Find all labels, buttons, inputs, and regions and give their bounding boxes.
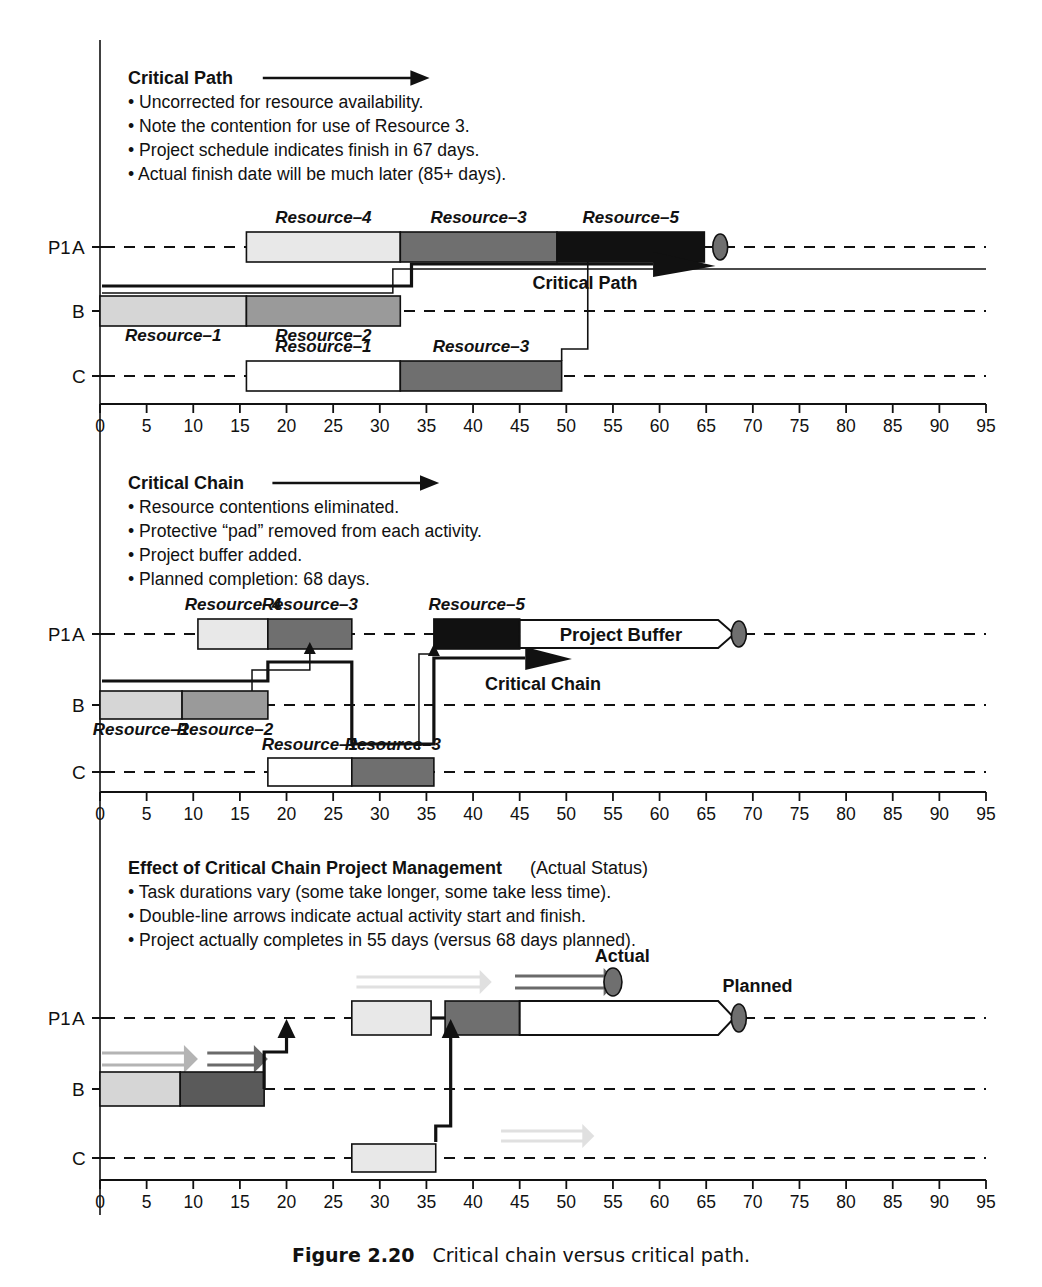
axis-tick-label: 85 (883, 416, 902, 436)
bar-label: Resource–3 (262, 595, 359, 614)
bar-label: Resource–4 (275, 208, 372, 227)
axis-tick-label: 90 (930, 804, 950, 824)
panel-critical-path-header: Critical Path• Uncorrected for resource … (128, 68, 506, 184)
axis-tick-label: 40 (463, 804, 483, 824)
panel-bullet: • Protective “pad” removed from each act… (128, 521, 482, 541)
panel-bullet: • Task durations vary (some take longer,… (128, 882, 611, 902)
axis-tick-label: 85 (883, 1192, 902, 1212)
bar-label: Resource–2 (177, 720, 274, 739)
axis-tick-label: 5 (142, 804, 152, 824)
axis-tick-label: 35 (417, 1192, 436, 1212)
bar-a-actual-2 (445, 1001, 520, 1035)
panel-bullet: • Resource contentions eliminated. (128, 497, 399, 517)
row-label-a: A (72, 624, 85, 645)
axis-tick-label: 30 (370, 416, 390, 436)
critical-chain-label: Critical Chain (485, 674, 601, 694)
bar-b-Resource–2 (246, 296, 400, 326)
axis-tick-label: 60 (650, 416, 670, 436)
axis-tick-label: 95 (976, 804, 995, 824)
bar-c-actual (352, 1144, 436, 1172)
bar-a-Resource–4 (246, 232, 400, 262)
panel-critical-chain-header: Critical Chain• Resource contentions eli… (128, 473, 482, 589)
panel-effect-of-ccpm-header: Effect of Critical Chain Project Managem… (128, 858, 648, 950)
bar-b-Resource–1 (100, 691, 182, 719)
project-row-label: P1 (48, 1008, 71, 1029)
bar-b-actual (180, 1072, 264, 1106)
panel-title: Critical Chain (128, 473, 244, 493)
row-label-a: A (72, 237, 85, 258)
axis-tick-label: 50 (557, 1192, 577, 1212)
figure-caption-text: Critical chain versus critical path. (432, 1244, 750, 1266)
bar-a-Resource–5 (434, 619, 520, 649)
axis-tick-label: 80 (836, 804, 856, 824)
axis-tick-label: 0 (95, 1192, 105, 1212)
axis-tick-label: 60 (650, 1192, 670, 1212)
axis-tick-label: 55 (603, 416, 622, 436)
bar-a-Resource–3 (400, 232, 557, 262)
bar-label: Resource–1 (275, 337, 371, 356)
project-buffer: Project Buffer (520, 620, 735, 648)
panel-bullet: • Note the contention for use of Resourc… (128, 116, 470, 136)
actual-arrowhead-icon (278, 1019, 296, 1038)
axis-tick-label: 70 (743, 416, 763, 436)
bar-label: Resource–5 (582, 208, 679, 227)
axis-tick-label: 20 (277, 416, 297, 436)
row-label-c: C (72, 366, 86, 387)
axis-tick-label: 15 (230, 1192, 249, 1212)
planned-finish-marker-icon (731, 1004, 746, 1032)
axis-tick-label: 35 (417, 804, 436, 824)
bar-label: Resource–3 (430, 208, 527, 227)
ghost-planned-arrow-c (501, 1124, 594, 1148)
bar-a-actual-1 (352, 1001, 431, 1035)
axis-tick-label: 10 (184, 1192, 204, 1212)
axis-tick-label: 45 (510, 416, 529, 436)
panel-title-suffix: (Actual Status) (530, 858, 648, 878)
axis-tick-label: 50 (557, 804, 577, 824)
axis-tick-label: 5 (142, 1192, 152, 1212)
axis-tick-label: 25 (323, 1192, 342, 1212)
project-buffer-remaining (520, 1001, 735, 1035)
axis-tick-label: 65 (696, 1192, 715, 1212)
axis-tick-label: 25 (323, 416, 342, 436)
axis-tick-label: 80 (836, 1192, 856, 1212)
axis-tick-label: 10 (184, 416, 204, 436)
axis-tick-label: 20 (277, 804, 297, 824)
axis-tick-label: 90 (930, 416, 950, 436)
axis-tick-label: 55 (603, 1192, 622, 1212)
bar-a-Resource–4 (198, 619, 268, 649)
row-label-c: C (72, 762, 86, 783)
panel-title: Effect of Critical Chain Project Managem… (128, 858, 502, 878)
axis-tick-label: 75 (790, 804, 809, 824)
bar-c-Resource–3 (400, 361, 561, 391)
project-row-label: P1 (48, 237, 71, 258)
figure-number: Figure 2.20 (292, 1244, 414, 1266)
actual-chain-b-to-a (264, 1034, 286, 1089)
axis-tick-label: 5 (142, 416, 152, 436)
axis-tick-label: 85 (883, 804, 902, 824)
bar-c-Resource–3 (352, 758, 434, 786)
axis-tick-label: 30 (370, 804, 390, 824)
bar-label: Resource–1 (93, 720, 189, 739)
axis-tick-label: 35 (417, 416, 436, 436)
panel-bullet: • Planned completion: 68 days. (128, 569, 370, 589)
actual-arrow-b1 (102, 1045, 198, 1073)
figure-container: Critical Path• Uncorrected for resource … (0, 0, 1042, 1287)
axis-panel-2: 05101520253035404550556065707580859095 (95, 792, 996, 824)
bar-c-Resource–1 (268, 758, 352, 786)
axis-panel-3: 05101520253035404550556065707580859095 (95, 1180, 996, 1212)
actual-label: Actual (595, 946, 650, 966)
dependency-link-b-to-a-thin (252, 652, 310, 691)
panel-title: Critical Path (128, 68, 233, 88)
bar-b-Resource–1 (100, 296, 246, 326)
axis-tick-label: 70 (743, 1192, 763, 1212)
axis-tick-label: 15 (230, 804, 249, 824)
axis-tick-label: 20 (277, 1192, 297, 1212)
actual-arrow-b2 (207, 1045, 268, 1073)
critical-path-label: Critical Path (532, 273, 637, 293)
axis-tick-label: 0 (95, 804, 105, 824)
row-label-b: B (72, 301, 85, 322)
panel-bullet: • Actual finish date will be much later … (128, 164, 506, 184)
axis-tick-label: 90 (930, 1192, 950, 1212)
actual-arrow-a (515, 968, 618, 996)
axis-tick-label: 45 (510, 1192, 529, 1212)
